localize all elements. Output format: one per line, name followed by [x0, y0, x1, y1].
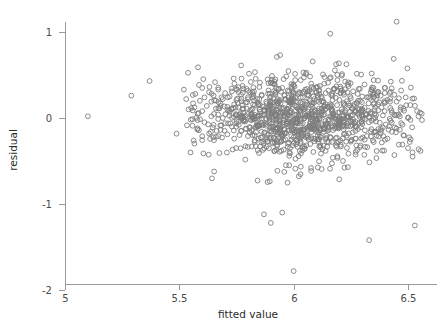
data-point [374, 149, 379, 154]
data-point [239, 63, 244, 68]
y-axis-title: residual [7, 129, 19, 171]
data-point [335, 103, 340, 108]
data-point [213, 80, 218, 85]
data-point [335, 72, 340, 77]
data-point [392, 153, 397, 158]
data-point [382, 91, 387, 96]
data-point [184, 97, 189, 102]
y-tick-label: -2 [42, 285, 52, 296]
data-point [369, 71, 374, 76]
x-axis-title: fitted value [218, 308, 278, 320]
data-point [268, 221, 273, 226]
data-point [85, 114, 90, 119]
data-point [403, 95, 408, 100]
data-point [355, 92, 360, 97]
data-point [282, 169, 287, 174]
data-point [345, 145, 350, 150]
data-point [280, 210, 285, 215]
data-point [248, 80, 253, 85]
data-point [286, 69, 291, 74]
x-tick-label: 6 [291, 293, 297, 304]
data-point [335, 78, 340, 83]
data-point [185, 123, 190, 128]
data-point [243, 157, 248, 162]
data-point [275, 168, 280, 173]
data-point [388, 79, 393, 84]
y-tick-label: 1 [46, 27, 52, 38]
data-point [366, 101, 371, 106]
data-point [346, 151, 351, 156]
data-point [217, 151, 222, 156]
data-point [391, 56, 396, 61]
data-point [232, 81, 237, 86]
data-point [408, 85, 413, 90]
data-point [413, 103, 418, 108]
data-point [212, 169, 217, 174]
data-point [285, 180, 290, 185]
data-point [201, 77, 206, 82]
data-point [399, 88, 404, 93]
x-tick-label: 5.5 [172, 293, 188, 304]
data-point [343, 79, 348, 84]
data-point [396, 96, 401, 101]
data-point [196, 65, 201, 70]
data-point [344, 139, 349, 144]
data-point [400, 78, 405, 83]
data-point [311, 150, 316, 155]
data-point [406, 146, 411, 151]
data-point [239, 76, 244, 81]
data-point [206, 152, 211, 157]
data-point [410, 125, 415, 130]
data-point [333, 68, 338, 73]
data-point [201, 151, 206, 156]
data-point [415, 109, 420, 114]
y-tick-group: 10-1-2 [42, 27, 65, 296]
data-point [337, 177, 342, 182]
data-point [374, 156, 379, 161]
data-point [174, 131, 179, 136]
data-point [293, 71, 298, 76]
data-point [129, 93, 134, 98]
data-point [310, 59, 315, 64]
y-axis: 10-1-2 [42, 22, 65, 296]
data-point [291, 269, 296, 274]
data-point [382, 109, 387, 114]
data-point [182, 87, 187, 92]
data-point [345, 165, 350, 170]
data-point [191, 138, 196, 143]
data-point [412, 223, 417, 228]
data-point [286, 141, 291, 146]
data-point [330, 161, 335, 166]
data-point [367, 160, 372, 165]
data-point [293, 166, 298, 171]
data-point [344, 62, 349, 67]
data-point [405, 66, 410, 71]
data-points-layer [85, 19, 424, 273]
data-point [367, 238, 372, 243]
data-point [362, 82, 367, 87]
data-point [394, 99, 399, 104]
data-point [237, 133, 242, 138]
data-point [351, 89, 356, 94]
data-point [254, 130, 259, 135]
data-point [209, 99, 214, 104]
data-point [190, 123, 195, 128]
y-tick-label: -1 [42, 199, 52, 210]
data-point [341, 159, 346, 164]
x-tick-group: 55.566.5 [62, 284, 416, 304]
data-point [328, 166, 333, 171]
chart-canvas: 10-1-2 55.566.5 fitted value residual [0, 0, 446, 330]
data-point [394, 19, 399, 24]
data-point [253, 70, 258, 75]
data-point [262, 212, 267, 217]
data-point [387, 91, 392, 96]
data-point [287, 163, 292, 168]
data-point [309, 81, 314, 86]
x-axis: 55.566.5 [62, 284, 437, 304]
data-point [247, 71, 252, 76]
data-point [225, 150, 230, 155]
data-point [293, 78, 298, 83]
data-point [210, 176, 215, 181]
data-point [317, 159, 322, 164]
y-tick-label: 0 [46, 113, 52, 124]
